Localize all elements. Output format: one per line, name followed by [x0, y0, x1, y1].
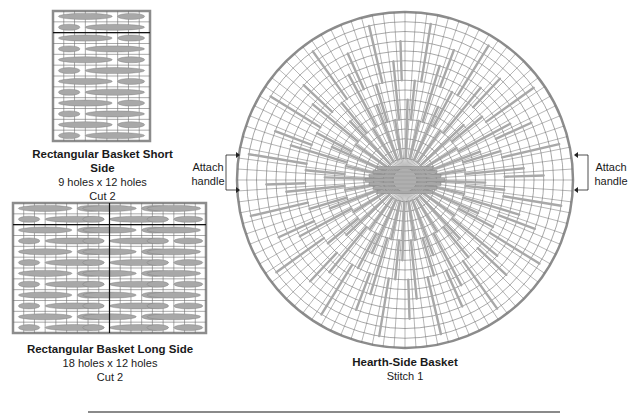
right-attach-handle-label: Attach handle [591, 160, 631, 188]
left-attach-handle-label: Attach handle [188, 160, 228, 188]
right-attach-line2: handle [591, 174, 631, 188]
long-side-grid [13, 203, 206, 333]
left-attach-line1: Attach [188, 160, 228, 174]
long-side-title: Rectangular Basket Long Side [20, 342, 200, 356]
right-attach-line1: Attach [591, 160, 631, 174]
round-caption: Hearth-Side Basket Stitch 1 [345, 355, 465, 383]
long-side-caption: Rectangular Basket Long Side 18 holes x … [20, 342, 200, 384]
right-handle-bracket-icon [574, 152, 588, 193]
short-side-cut: Cut 2 [20, 189, 185, 203]
round-title: Hearth-Side Basket [345, 355, 465, 369]
short-side-caption: Rectangular Basket Short Side 9 holes x … [20, 147, 185, 203]
short-side-grid [53, 11, 150, 141]
long-side-cut: Cut 2 [20, 370, 200, 384]
long-side-size: 18 holes x 12 holes [20, 356, 200, 370]
bottom-divider [88, 411, 560, 413]
left-attach-line2: handle [188, 174, 228, 188]
short-side-size: 9 holes x 12 holes [20, 175, 185, 189]
round-subtitle: Stitch 1 [345, 369, 465, 383]
short-side-title: Rectangular Basket Short Side [20, 147, 185, 175]
round-basket-grid [237, 12, 573, 348]
